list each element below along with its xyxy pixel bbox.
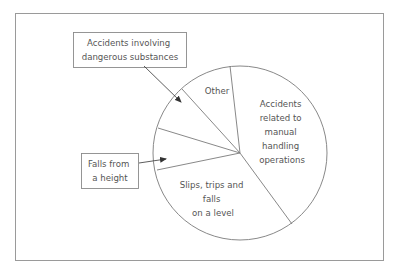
arrow-falls [139, 159, 166, 163]
label-slips: Slips, trips and falls on a level [180, 180, 246, 218]
divider-other-manual [230, 66, 240, 153]
divider-falls-dangerous [158, 128, 240, 153]
divider-slips-falls [157, 153, 240, 170]
figure-frame [16, 14, 384, 261]
pie-chart-figure: Other Accidents related to manual handli… [0, 0, 399, 276]
arrow-dangerous [144, 66, 181, 102]
divider-dangerous-other [182, 89, 240, 153]
label-other: Other [205, 86, 230, 96]
label-manual: Accidents related to manual handling ope… [259, 99, 305, 165]
